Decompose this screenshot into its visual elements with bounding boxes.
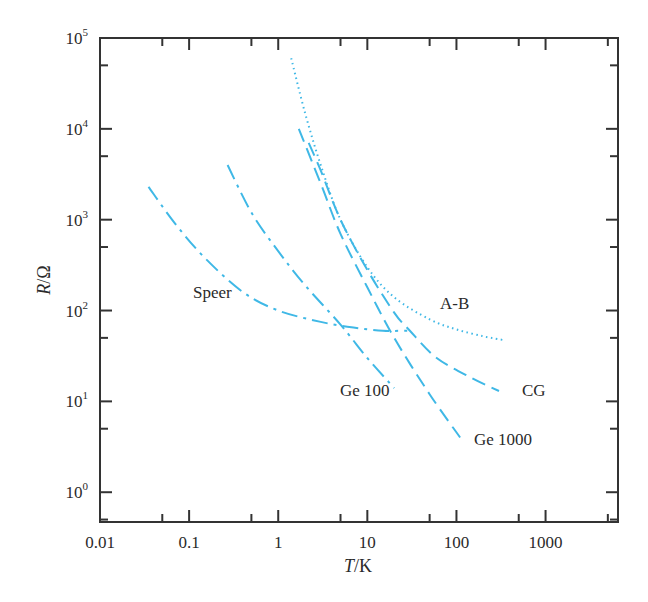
label-cg: CG xyxy=(522,381,546,400)
x-tick-label: 10 xyxy=(359,533,376,552)
resistance-temperature-chart: 0.010.11101001000 100101102103104105 A-B… xyxy=(0,0,648,602)
x-axis-title: T/K xyxy=(344,556,372,576)
curve-ge-100 xyxy=(228,165,395,388)
y-tick-label: 102 xyxy=(66,299,89,321)
label-ge-1000: Ge 1000 xyxy=(474,430,532,449)
axis-ticks xyxy=(100,38,618,522)
y-tick-label: 104 xyxy=(66,117,89,139)
curve-cg xyxy=(309,143,499,391)
x-tick-label: 100 xyxy=(444,533,470,552)
y-tick-label: 101 xyxy=(66,389,89,411)
curve-labels: A-BGe 1000CGGe 100Speer xyxy=(193,283,546,449)
curve-speer xyxy=(149,187,408,331)
x-tick-label: 0.01 xyxy=(85,533,115,552)
x-tick-label: 1000 xyxy=(529,533,563,552)
x-tick-label: 1 xyxy=(274,533,283,552)
y-tick-label: 100 xyxy=(66,480,89,502)
y-axis-title: R/Ω xyxy=(34,265,54,295)
x-tick-label: 0.1 xyxy=(178,533,199,552)
curve-a-b xyxy=(291,58,505,340)
plot-border xyxy=(100,38,618,522)
label-ge-100: Ge 100 xyxy=(340,381,390,400)
label-a-b: A-B xyxy=(440,294,469,313)
curves xyxy=(149,58,505,437)
y-tick-label: 103 xyxy=(66,208,89,230)
x-tick-labels: 0.010.11101001000 xyxy=(85,533,562,552)
y-tick-labels: 100101102103104105 xyxy=(66,26,89,502)
plot-frame xyxy=(100,38,618,522)
label-speer: Speer xyxy=(193,283,232,302)
y-tick-label: 105 xyxy=(66,26,89,48)
